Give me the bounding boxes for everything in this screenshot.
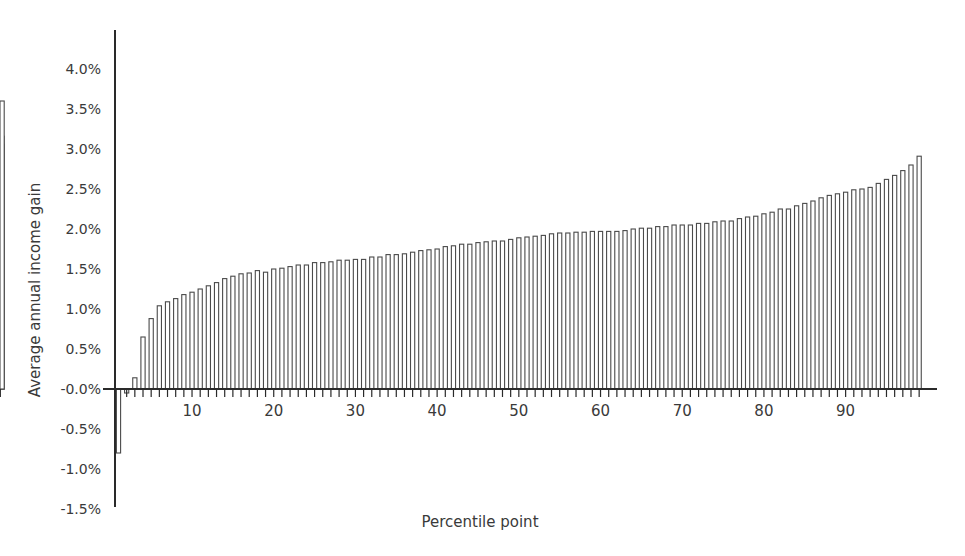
bar: [272, 269, 276, 389]
x-tick-label: 40: [428, 402, 447, 420]
bar: [664, 227, 668, 389]
bar: [394, 255, 398, 389]
bar: [884, 179, 888, 389]
bar: [476, 243, 480, 389]
bar: [460, 244, 464, 389]
x-tick-label: 10: [182, 402, 201, 420]
x-tick-label: 90: [836, 402, 855, 420]
y-axis-tick-labels: 4.0%3.5%3.0%2.5%2.0%1.5%1.0%0.5%-0.0%-0.…: [60, 61, 101, 517]
bar: [549, 234, 553, 389]
bar: [778, 209, 782, 389]
bar: [419, 251, 423, 389]
bar: [631, 229, 635, 389]
bar: [165, 302, 169, 389]
bar: [239, 274, 243, 389]
x-axis-title: Percentile point: [421, 513, 538, 531]
bar: [370, 257, 374, 389]
bar: [198, 289, 202, 389]
bar: [729, 221, 733, 389]
bar: [402, 254, 406, 389]
bar: [590, 231, 594, 389]
y-tick-label: 3.0%: [65, 141, 101, 157]
y-tick-label: -1.5%: [60, 501, 101, 517]
bar: [860, 189, 864, 389]
bars-group: [0, 101, 921, 453]
bar: [835, 194, 839, 389]
bar: [803, 203, 807, 389]
y-tick-label: 4.0%: [65, 61, 101, 77]
bar: [280, 268, 284, 389]
bar: [517, 238, 521, 389]
bar: [223, 279, 227, 389]
bar: [688, 225, 692, 389]
x-tick-label: 30: [346, 402, 365, 420]
bar: [484, 242, 488, 389]
y-tick-label: 3.5%: [65, 101, 101, 117]
bar: [844, 192, 848, 389]
x-tick-label: 80: [754, 402, 773, 420]
bar: [795, 206, 799, 389]
bar: [427, 250, 431, 389]
bar: [149, 319, 153, 389]
bar: [852, 190, 856, 389]
bar: [786, 209, 790, 389]
bar: [321, 263, 325, 389]
bar: [607, 231, 611, 389]
x-axis-tick-labels: 102030405060708090: [182, 402, 855, 420]
bar: [745, 217, 749, 389]
bar: [133, 378, 137, 389]
bar: [509, 239, 513, 389]
bar: [713, 222, 717, 389]
bar: [566, 233, 570, 389]
bar: [411, 252, 415, 389]
bar: [558, 233, 562, 389]
bar: [582, 232, 586, 389]
bar: [647, 228, 651, 389]
bar: [909, 165, 913, 389]
bar: [443, 247, 447, 389]
y-tick-label: 1.0%: [65, 301, 101, 317]
bar: [754, 216, 758, 389]
bar: [541, 235, 545, 389]
bar: [337, 260, 341, 389]
bar: [917, 156, 921, 389]
bar: [893, 175, 897, 389]
bar: [378, 257, 382, 389]
bar: [312, 263, 316, 389]
bar: [157, 306, 161, 389]
bar: [206, 286, 210, 389]
bar: [435, 249, 439, 389]
bar: [705, 223, 709, 389]
bar: [868, 187, 872, 389]
bar: [329, 262, 333, 389]
bar: [525, 237, 529, 389]
bar: [386, 255, 390, 389]
bar: [762, 214, 766, 389]
bar: [533, 236, 537, 389]
bar: [288, 267, 292, 389]
bar: [190, 292, 194, 389]
bar: [255, 271, 259, 389]
bar: [623, 231, 627, 389]
bar: [247, 273, 251, 389]
x-tick-label: 20: [264, 402, 283, 420]
y-tick-label: 1.5%: [65, 261, 101, 277]
bar: [231, 276, 235, 389]
y-axis-title: Average annual income gain: [26, 183, 44, 397]
bar: [263, 272, 267, 389]
y-tick-label: 2.0%: [65, 221, 101, 237]
bar: [214, 283, 218, 389]
bar: [296, 265, 300, 389]
bar: [174, 299, 178, 389]
bar: [770, 212, 774, 389]
bar: [876, 183, 880, 389]
bar: [696, 223, 700, 389]
bar: [737, 219, 741, 389]
bar: [827, 195, 831, 389]
bar: [116, 389, 120, 453]
bar: [345, 260, 349, 389]
y-tick-label: -1.0%: [60, 461, 101, 477]
y-tick-label: 0.5%: [65, 341, 101, 357]
bar: [639, 228, 643, 389]
bar: [680, 225, 684, 389]
